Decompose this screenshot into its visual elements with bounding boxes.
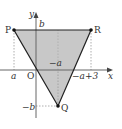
y-axis-arrow-icon (34, 12, 39, 18)
tick-x-neg-a-plus-3: −a+3 (72, 71, 98, 81)
tick-y-neg-b: −b (22, 102, 36, 112)
tick-x-a: a (11, 71, 16, 81)
tick-y-b: b (39, 19, 45, 29)
y-axis-label: y (28, 9, 35, 19)
point-p (12, 28, 16, 32)
origin-label: O (27, 71, 34, 81)
point-p-label: P (5, 25, 11, 35)
triangle-pqr (14, 30, 91, 106)
x-axis-label: x (108, 71, 113, 81)
point-q (56, 104, 60, 108)
triangle-diagram: y x O P R Q b −b a −a −a+3 (0, 0, 122, 129)
tick-x-neg-a: −a (49, 58, 62, 68)
point-r (89, 28, 93, 32)
point-q-label: Q (61, 103, 68, 113)
point-r-label: R (94, 25, 101, 35)
